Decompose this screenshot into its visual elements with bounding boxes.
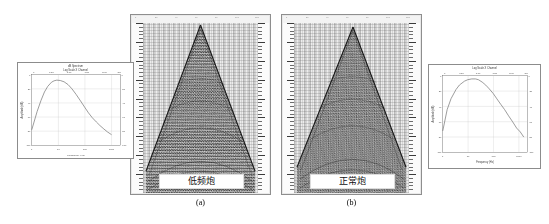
svg-text:2.00: 2.00 [102, 71, 107, 73]
trace-noise-texture [143, 23, 258, 193]
svg-text:2.5: 2.5 [118, 71, 122, 73]
header-label: 100 [235, 16, 239, 18]
svg-text:-60: -60 [122, 116, 126, 118]
seismic-panel-b-frame: 1 20 40 60 80 100 120 [281, 14, 422, 195]
svg-text:-100: -100 [26, 144, 31, 146]
svg-text:0: 0 [529, 75, 531, 77]
svg-text:-40: -40 [529, 106, 533, 108]
svg-text:-60: -60 [27, 116, 31, 118]
header-label: 20 [155, 16, 158, 18]
svg-text:-80: -80 [122, 130, 126, 132]
svg-text:-20: -20 [529, 90, 533, 92]
svg-text:-20: -20 [438, 90, 442, 92]
svg-text:-80: -80 [529, 136, 533, 138]
svg-text:-40: -40 [438, 106, 442, 108]
header-label: 80 [366, 16, 369, 18]
svg-text:-60: -60 [438, 121, 442, 123]
svg-text:1000: 1000 [516, 155, 522, 157]
spectrum-inset-a: dB Spectrum Log Scale X Channel 110 1001… [17, 62, 134, 159]
svg-text:1: 1 [31, 148, 33, 150]
header-label: 60 [195, 16, 198, 18]
seismic-panel-b: 1 20 40 60 80 100 120 [281, 14, 422, 195]
svg-text:-20: -20 [122, 88, 126, 90]
panel-a-shot-label: 低频炮 [159, 174, 244, 189]
svg-text:0: 0 [444, 72, 446, 74]
svg-text:-60: -60 [529, 121, 533, 123]
svg-text:Frequency (Hz): Frequency (Hz) [476, 160, 494, 164]
subcaption-b: (b) [281, 198, 422, 207]
header-label: 120 [406, 16, 410, 18]
header-label: 120 [255, 16, 259, 18]
header-label: 20 [306, 16, 309, 18]
svg-text:Amplitude (dB): Amplitude (dB) [431, 105, 435, 122]
figure-root: 1 20 40 60 80 100 120 [0, 0, 549, 224]
svg-text:-40: -40 [122, 102, 126, 104]
spectrum-a-plot: 110 1001000 00.50 1.001.50 2.002.5 0-20 … [18, 63, 133, 158]
trace-noise-texture [294, 23, 409, 193]
header-label: 100 [386, 16, 390, 18]
svg-text:-100: -100 [437, 151, 442, 153]
header-label: 60 [346, 16, 349, 18]
time-ruler-right-b [408, 23, 420, 193]
svg-text:2.5: 2.5 [525, 72, 529, 74]
panel-b-shot-label: 正常炮 [310, 174, 395, 189]
svg-text:-100: -100 [122, 144, 127, 146]
svg-text:-40: -40 [27, 102, 31, 104]
svg-text:Amplitude (dB): Amplitude (dB) [20, 101, 24, 118]
svg-text:-20: -20 [27, 88, 31, 90]
header-label: 80 [215, 16, 218, 18]
seismic-data-area-a [143, 23, 258, 193]
header-label: 40 [175, 16, 178, 18]
svg-text:10: 10 [57, 148, 60, 150]
header-label: 1 [286, 16, 287, 18]
svg-text:0.50: 0.50 [49, 71, 54, 73]
svg-text:1.00: 1.00 [476, 72, 481, 74]
svg-text:2.00: 2.00 [509, 72, 514, 74]
svg-text:0: 0 [440, 75, 442, 77]
seismic-data-area-b [294, 23, 409, 193]
seismic-panel-a-frame: 1 20 40 60 80 100 120 [130, 14, 271, 195]
header-label: 1 [135, 16, 136, 18]
spectrum-inset-b: Log Scale X Channel 110 1001000 00.50 1.… [428, 64, 541, 169]
svg-text:0.50: 0.50 [459, 72, 464, 74]
subcaption-a: (a) [130, 198, 271, 207]
svg-text:-100: -100 [529, 151, 534, 153]
svg-text:-80: -80 [27, 130, 31, 132]
svg-text:0: 0 [33, 71, 35, 73]
svg-text:0: 0 [29, 74, 31, 76]
header-label: 40 [326, 16, 329, 18]
svg-text:0: 0 [122, 74, 124, 76]
spectrum-b-plot: 110 1001000 00.50 1.001.50 2.002.5 0-20 … [429, 65, 540, 168]
svg-text:1.50: 1.50 [493, 72, 498, 74]
seismic-panel-a: 1 20 40 60 80 100 120 [130, 14, 271, 195]
svg-text:1000: 1000 [109, 148, 115, 150]
svg-text:-80: -80 [438, 136, 442, 138]
svg-text:1: 1 [442, 155, 444, 157]
svg-text:100: 100 [492, 155, 497, 157]
svg-text:100: 100 [83, 148, 88, 150]
svg-text:10: 10 [467, 155, 470, 157]
svg-text:1.50: 1.50 [85, 71, 90, 73]
svg-text:1.00: 1.00 [67, 71, 72, 73]
svg-text:Frequency (Hz): Frequency (Hz) [67, 153, 85, 157]
time-ruler-right-a [257, 23, 269, 193]
